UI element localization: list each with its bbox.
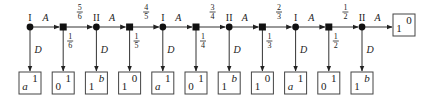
chance-node <box>126 24 133 31</box>
fraction-numerator: 5 <box>78 3 82 12</box>
down-action-label: D <box>299 44 308 55</box>
payoff-bottom-left: a <box>288 80 294 92</box>
fraction-denominator: 4 <box>211 12 215 21</box>
fraction-denominator: 6 <box>78 12 82 21</box>
payoff-box: 01 <box>318 72 340 94</box>
right-probability: 45 <box>143 3 149 21</box>
terminal-payoff-box: 10 <box>393 14 415 36</box>
payoff-top-right: 1 <box>65 72 71 84</box>
down-probability: 14 <box>200 32 206 50</box>
action-label: A <box>174 12 182 23</box>
fraction-numerator: 1 <box>334 32 338 41</box>
payoff-top-right: 1 <box>32 72 38 84</box>
payoff-bottom-left: 0 <box>188 80 194 92</box>
right-probability: 56 <box>77 3 83 21</box>
fraction-numerator: 2 <box>277 3 281 12</box>
down-action-label: D <box>166 44 175 55</box>
player-label: I <box>161 12 164 23</box>
fraction-numerator: 4 <box>144 3 148 12</box>
down-action-label: D <box>100 44 109 55</box>
right-probability: 12 <box>342 3 348 21</box>
payoff-bottom-left: a <box>22 80 28 92</box>
down-probability: 13 <box>266 32 272 50</box>
payoff-bottom-left: 1 <box>396 22 402 34</box>
chance-node <box>193 24 200 31</box>
fraction-denominator: 3 <box>277 12 281 21</box>
fraction-numerator: 1 <box>135 32 139 41</box>
payoff-bottom-left: 1 <box>89 80 95 92</box>
fraction-numerator: 1 <box>68 32 72 41</box>
fraction-numerator: 1 <box>267 32 271 41</box>
action-label: A <box>42 12 50 23</box>
fraction-denominator: 2 <box>334 41 338 50</box>
payoff-box: a1 <box>19 72 41 94</box>
payoff-box: 01 <box>185 72 207 94</box>
payoff-bottom-left: a <box>155 80 161 92</box>
fraction-denominator: 5 <box>144 12 148 21</box>
fraction-denominator: 2 <box>343 12 347 21</box>
fraction-numerator: 1 <box>343 3 347 12</box>
fraction-numerator: 3 <box>211 3 215 12</box>
player-node <box>27 24 34 31</box>
player-label: I <box>294 12 297 23</box>
payoff-box: 1b <box>218 72 240 94</box>
action-label: A <box>108 12 116 23</box>
player-node <box>359 24 366 31</box>
payoff-bottom-left: 1 <box>255 80 261 92</box>
payoff-top-right: 0 <box>406 14 412 26</box>
down-action-label: D <box>233 44 242 55</box>
player-label: II <box>226 12 233 23</box>
payoff-top-right: 1 <box>331 72 337 84</box>
fraction-denominator: 5 <box>135 41 139 50</box>
player-node <box>226 24 233 31</box>
payoff-top-right: b <box>364 72 370 84</box>
fraction-denominator: 3 <box>267 41 271 50</box>
payoff-top-right: 0 <box>265 72 271 84</box>
payoff-top-right: 1 <box>298 72 304 84</box>
chance-node <box>325 24 332 31</box>
payoff-bottom-left: 0 <box>321 80 327 92</box>
right-probability: 23 <box>276 3 282 21</box>
right-probability: 34 <box>210 3 216 21</box>
down-action-label: D <box>33 44 42 55</box>
action-label: A <box>307 12 315 23</box>
fraction-denominator: 4 <box>201 41 205 50</box>
payoff-top-right: b <box>231 72 237 84</box>
player-label: II <box>93 12 100 23</box>
payoff-top-right: 1 <box>198 72 204 84</box>
player-label: II <box>359 12 366 23</box>
game-tree-diagram: IADa1561601IIAD1b451510IADa1341401IIAD1b… <box>0 0 439 101</box>
payoff-box: 10 <box>251 72 273 94</box>
down-probability: 16 <box>67 32 73 50</box>
action-label: A <box>241 12 249 23</box>
payoff-box: 1b <box>85 72 107 94</box>
chance-node <box>259 24 266 31</box>
fraction-denominator: 6 <box>68 41 72 50</box>
payoff-top-right: b <box>99 72 105 84</box>
down-action-label: D <box>365 44 374 55</box>
payoff-bottom-left: 1 <box>122 80 128 92</box>
player-label: I <box>28 12 31 23</box>
payoff-box: a1 <box>285 72 307 94</box>
payoff-box: a1 <box>152 72 174 94</box>
payoff-bottom-left: 0 <box>55 80 61 92</box>
player-node <box>93 24 100 31</box>
payoff-box: 01 <box>52 72 74 94</box>
down-probability: 15 <box>134 32 140 50</box>
fraction-numerator: 1 <box>201 32 205 41</box>
player-node <box>159 24 166 31</box>
payoff-box: 1b <box>351 72 373 94</box>
payoff-bottom-left: 1 <box>221 80 227 92</box>
chance-node <box>60 24 67 31</box>
down-probability: 12 <box>333 32 339 50</box>
payoff-top-right: 1 <box>165 72 171 84</box>
action-label: A <box>374 12 382 23</box>
player-node <box>292 24 299 31</box>
payoff-top-right: 0 <box>132 72 138 84</box>
payoff-box: 10 <box>119 72 141 94</box>
payoff-bottom-left: 1 <box>354 80 360 92</box>
